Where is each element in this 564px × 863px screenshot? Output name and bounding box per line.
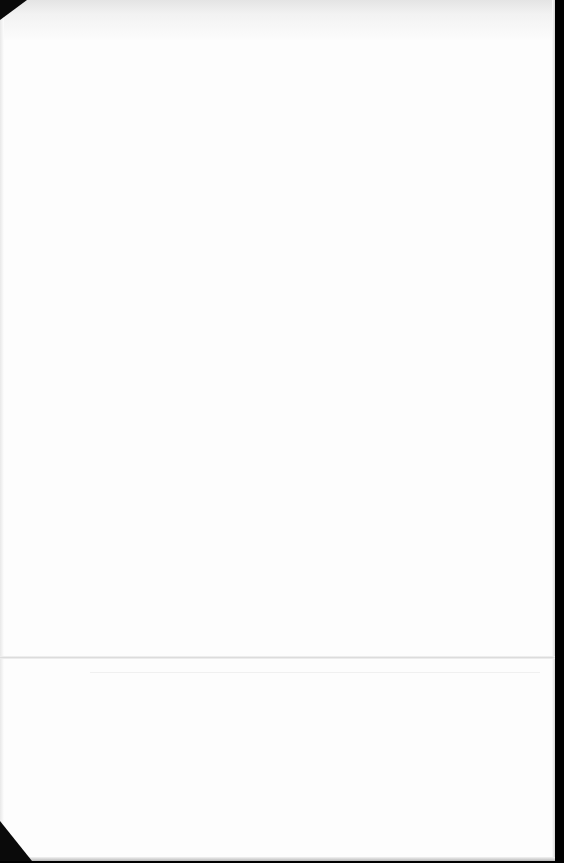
secondary-fold-crease <box>90 672 540 673</box>
bottom-page-edge <box>0 857 555 861</box>
top-scan-shadow <box>0 0 555 40</box>
left-page-edge <box>0 0 4 861</box>
right-page-edge <box>552 0 555 861</box>
folded-corner-top-left <box>0 0 27 20</box>
folded-corner-bottom-left <box>0 821 32 861</box>
scanned-page <box>0 0 555 861</box>
horizontal-fold-line <box>0 656 555 659</box>
